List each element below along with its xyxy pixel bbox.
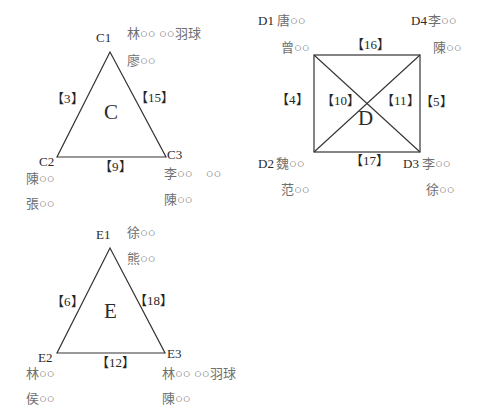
d2-name-line2: 范○○ bbox=[281, 183, 310, 196]
d1-name-line2: 曾○○ bbox=[281, 41, 310, 54]
diagram-shapes bbox=[0, 0, 482, 411]
edge-weight-e-right: 【18】 bbox=[134, 294, 173, 307]
c3-name-line2: 陳○○ bbox=[164, 193, 193, 206]
edge-weight-c-left: 【3】 bbox=[51, 92, 84, 105]
vertex-label-e2: E2 bbox=[38, 351, 52, 364]
c3-name-line1: 李○○ ○○ bbox=[164, 167, 221, 180]
d3-name-line2: 徐○○ bbox=[426, 183, 455, 196]
d4-name-line1: 李○○ bbox=[428, 14, 457, 27]
vertex-label-d1: D1 bbox=[258, 14, 274, 27]
c2-name-line2: 張○○ bbox=[26, 197, 55, 210]
vertex-label-c1: C1 bbox=[96, 31, 111, 44]
d1-name-line1: 唐○○ bbox=[277, 14, 306, 27]
vertex-label-d3: D3 bbox=[403, 157, 419, 170]
group-letter-d: D bbox=[358, 108, 373, 129]
c2-name-line1: 陳○○ bbox=[26, 172, 55, 185]
c1-name-line1: 林○○ ○○羽球 bbox=[127, 27, 201, 40]
edge-weight-d-right: 【5】 bbox=[420, 95, 453, 108]
group-letter-c: C bbox=[104, 102, 118, 123]
vertex-label-c3: C3 bbox=[167, 148, 182, 161]
e3-name-line1: 林○○ ○○羽球 bbox=[162, 367, 236, 380]
vertex-label-e3: E3 bbox=[167, 347, 181, 360]
group-letter-e: E bbox=[104, 301, 117, 322]
edge-weight-d-left: 【4】 bbox=[276, 93, 309, 106]
e3-name-line2: 陳○○ bbox=[162, 392, 191, 405]
d3-name-line1: 李○○ bbox=[422, 157, 451, 170]
vertex-label-c2: C2 bbox=[39, 155, 54, 168]
c1-name-line2: 廖○○ bbox=[127, 54, 156, 67]
vertex-label-e1: E1 bbox=[96, 228, 110, 241]
vertex-label-d4: D4 bbox=[411, 14, 427, 27]
d2-name-line1: 魏○○ bbox=[276, 157, 305, 170]
edge-weight-d-bottom: 【17】 bbox=[350, 154, 389, 167]
vertex-label-d2: D2 bbox=[258, 157, 274, 170]
diagram-canvas: C1 林○○ ○○羽球 廖○○ 【3】 【15】 C C2 【9】 C3 陳○○… bbox=[0, 0, 482, 411]
edge-weight-d-top: 【16】 bbox=[351, 38, 390, 51]
e2-name-line2: 侯○○ bbox=[26, 392, 55, 405]
e1-name-line1: 徐○○ bbox=[127, 226, 156, 239]
d4-name-line2: 陳○○ bbox=[433, 41, 462, 54]
edge-weight-d-diag-left: 【10】 bbox=[321, 94, 360, 107]
edge-weight-e-bottom: 【12】 bbox=[96, 356, 135, 369]
edge-weight-c-bottom: 【9】 bbox=[99, 160, 132, 173]
e1-name-line2: 熊○○ bbox=[127, 252, 156, 265]
edge-weight-d-diag-right: 【11】 bbox=[381, 94, 420, 107]
e2-name-line1: 林○○ bbox=[26, 367, 55, 380]
edge-weight-e-left: 【6】 bbox=[51, 295, 84, 308]
edge-weight-c-right: 【15】 bbox=[135, 91, 174, 104]
